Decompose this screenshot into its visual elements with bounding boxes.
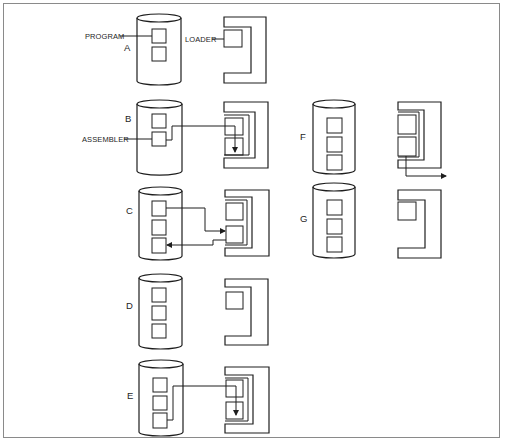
step-a-disk — [137, 14, 181, 85]
step-c-arrow-in — [166, 208, 225, 231]
assembler-block — [152, 132, 166, 146]
step-e-loader — [225, 367, 269, 433]
diagram-canvas — [0, 0, 505, 443]
step-d-disk — [139, 274, 182, 349]
loader-block — [224, 30, 242, 47]
step-c-loader — [225, 190, 269, 256]
program-block — [152, 29, 166, 43]
step-label-e: E — [127, 390, 133, 401]
step-c-arrow-out — [167, 240, 226, 245]
step-label-d: D — [126, 300, 133, 311]
step-label-a: A — [124, 42, 130, 53]
step-g-disk — [313, 183, 355, 258]
step-label-b: B — [125, 113, 131, 124]
step-f-disk — [313, 100, 355, 174]
program-label: PROGRAM — [85, 32, 124, 41]
step-label-f: F — [300, 131, 306, 142]
assembler-label: ASSEMBLER — [82, 135, 129, 144]
step-b-loader — [224, 102, 268, 168]
step-g-loader — [398, 190, 441, 258]
step-f-arrow — [406, 156, 446, 176]
step-b-disk — [137, 100, 182, 175]
step-label-c: C — [126, 205, 133, 216]
step-label-g: G — [300, 213, 307, 224]
loader-label: LOADER — [185, 35, 216, 44]
step-d-loader — [225, 279, 268, 345]
step-e-disk — [139, 360, 183, 436]
step-c-disk — [139, 187, 182, 260]
step-a-loader — [224, 17, 266, 83]
step-f-loader — [398, 102, 441, 168]
